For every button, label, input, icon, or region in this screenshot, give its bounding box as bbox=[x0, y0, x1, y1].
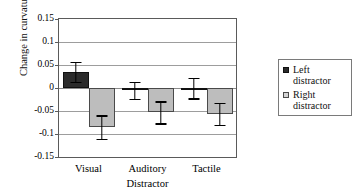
error-bar-cap-lower bbox=[214, 125, 225, 126]
legend-item-left-distractor: Leftdistractor bbox=[283, 64, 347, 86]
error-bar-line bbox=[101, 115, 102, 139]
gridline bbox=[59, 42, 236, 43]
error-bar-cap-lower bbox=[129, 99, 140, 100]
error-bar-line bbox=[134, 82, 135, 99]
error-bar-cap-lower bbox=[96, 139, 107, 140]
gridline bbox=[59, 65, 236, 66]
x-axis-title: Distractor bbox=[58, 178, 237, 189]
error-bar-cap-upper bbox=[70, 62, 81, 63]
error-bar-cap-upper bbox=[155, 101, 166, 102]
error-bar-line bbox=[219, 103, 220, 125]
y-axis-tick-label: -0.1 bbox=[8, 129, 54, 139]
error-bar-cap-upper bbox=[214, 103, 225, 104]
legend-label-left-distractor: Leftdistractor bbox=[293, 64, 331, 86]
legend-label-right-distractor: Rightdistractor bbox=[293, 89, 331, 111]
error-bar-cap-lower bbox=[155, 123, 166, 124]
x-axis-tick-label: Tactile bbox=[167, 163, 247, 174]
y-axis-tick-mark bbox=[55, 65, 59, 66]
legend-item-right-distractor: Rightdistractor bbox=[283, 89, 347, 111]
y-axis-tick-mark bbox=[55, 42, 59, 43]
bar-chart: Change in curvature 0.150.10.050-0.05-0.… bbox=[0, 0, 360, 196]
y-axis-tick-mark bbox=[55, 111, 59, 112]
plot-area: 0.150.10.050-0.05-0.1-0.15VisualAuditory… bbox=[58, 18, 237, 158]
error-bar-cap-upper bbox=[129, 82, 140, 83]
error-bar-cap-lower bbox=[70, 82, 81, 83]
y-axis-tick-label: 0.1 bbox=[8, 37, 54, 47]
y-axis-tick-mark bbox=[55, 88, 59, 89]
chart-legend: Leftdistractor Rightdistractor bbox=[278, 59, 352, 116]
legend-swatch-right-distractor bbox=[283, 92, 289, 98]
error-bar-line bbox=[193, 78, 194, 98]
y-axis-tick-label: -0.05 bbox=[8, 106, 54, 116]
error-bar-cap-lower bbox=[188, 98, 199, 99]
error-bar-cap-upper bbox=[96, 115, 107, 116]
error-bar-line bbox=[75, 62, 76, 82]
gridline bbox=[59, 134, 236, 135]
y-axis-tick-mark bbox=[55, 134, 59, 135]
y-axis-tick-label: 0 bbox=[8, 83, 54, 93]
y-axis-tick-mark bbox=[55, 157, 59, 158]
y-axis-tick-label: 0.05 bbox=[8, 60, 54, 70]
error-bar-line bbox=[160, 101, 161, 123]
legend-swatch-left-distractor bbox=[283, 67, 289, 73]
error-bar-cap-upper bbox=[188, 78, 199, 79]
y-axis-tick-mark bbox=[55, 19, 59, 20]
y-axis-tick-label: 0.15 bbox=[8, 14, 54, 24]
y-axis-tick-label: -0.15 bbox=[8, 152, 54, 162]
